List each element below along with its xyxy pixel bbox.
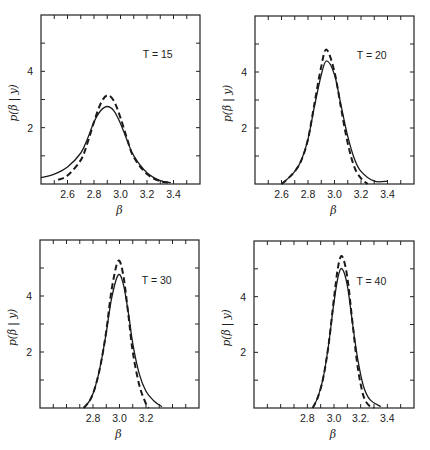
x-tick-label: 3.2 [354,188,369,200]
axes-frame [255,16,414,184]
y-tick-label: 2 [241,122,247,134]
y-tick-label: 2 [26,346,32,358]
figure: 2.62.83.03.23.424βp(β | y)T = 15 2.62.83… [0,0,430,450]
x-tick-label: 2.6 [60,188,75,200]
y-axis-label: p(β | y) [7,84,21,121]
y-axis-label: p(β | y) [6,309,20,346]
solid-density-curve [282,61,388,184]
panel-t15: 2.62.83.03.23.424βp(β | y)T = 15 [7,15,200,217]
axes-frame [254,241,414,408]
x-tick-label: 3.0 [113,188,128,200]
sample-size-annotation: T = 40 [356,275,386,287]
x-tick-label: 3.4 [380,188,395,200]
x-tick-label: 3.2. [352,412,370,424]
x-tick-label: 3.4 [380,412,395,424]
sample-size-annotation: T = 20 [357,49,387,61]
x-axis-label: β [329,204,336,217]
y-tick-label: 4 [241,66,247,78]
x-tick-label: 2.8 [300,412,315,424]
y-tick-label: 4 [27,65,33,77]
x-tick-label: 2.6 [274,188,289,200]
axes-frame [40,240,199,408]
x-tick-label: 3.0 [112,412,127,424]
x-tick-label: 3.0 [327,412,342,424]
x-tick-label: 3.2 [140,188,155,200]
x-tick-label: 2.8 [87,188,102,200]
x-tick-label: 3.0 [327,188,342,200]
x-axis-label: β [329,428,336,441]
axes-frame [41,15,200,184]
dashed-density-curve [84,261,149,408]
solid-density-curve [41,107,171,183]
x-tick-label: 2.8 [301,188,316,200]
y-tick-label: 2 [240,346,246,358]
dashed-density-curve [282,50,368,184]
y-axis-label: p(β | y) [220,309,234,346]
solid-density-curve [313,269,381,408]
x-tick-label: 2.8 [86,412,101,424]
y-tick-label: 2 [27,122,33,134]
sample-size-annotation: T = 30 [142,274,172,286]
x-axis-label: β [114,428,121,441]
y-tick-label: 4 [26,290,32,302]
dashed-density-curve [58,95,169,182]
panel-t20: 2.62.83.03.23.424βp(β | y)T = 20 [221,16,414,217]
x-axis-label: β [115,204,122,217]
x-tick-label: 3.4 [166,188,181,200]
panel-t30: 2.83.03.224βp(β | y)T = 30 [6,240,199,441]
sample-size-annotation: T = 15 [143,48,173,60]
y-axis-label: p(β | y) [221,85,235,122]
y-tick-label: 4 [240,291,246,303]
panel-t40: 2.83.03.2.3.424βp(β | y)T = 40 [220,241,414,441]
x-tick-label: 3.2 [139,412,154,424]
